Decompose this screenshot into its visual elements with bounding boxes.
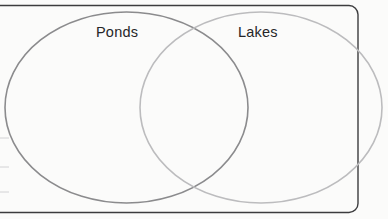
venn-circle-ponds[interactable]: [5, 12, 248, 203]
venn-label-lakes: Lakes: [238, 25, 278, 40]
venn-circle-lakes[interactable]: [140, 12, 382, 203]
scan-edge-marks: [0, 138, 9, 192]
venn-diagram-canvas: [0, 0, 388, 219]
venn-diagram-worksheet: Ponds Lakes: [0, 0, 388, 219]
venn-label-ponds: Ponds: [96, 25, 138, 40]
